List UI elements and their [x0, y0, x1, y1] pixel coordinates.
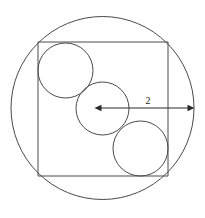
bottom-right-circle: [113, 121, 168, 176]
geometry-figure: 2: [0, 0, 205, 218]
figure-canvas: 2: [0, 0, 205, 218]
dimension-label: 2: [146, 95, 151, 106]
top-left-circle: [38, 43, 93, 98]
dimension-arrowhead-left-icon: [95, 105, 102, 111]
dimension-arrowhead-right-icon: [188, 105, 195, 111]
inscribed-square: [38, 42, 168, 176]
